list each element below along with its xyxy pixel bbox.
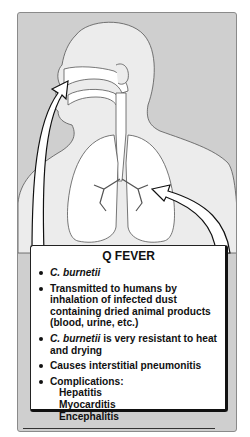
bullet-organism: C. burnetii — [36, 267, 221, 279]
bullet-transmission: Transmitted to humans by inhalation of i… — [36, 283, 221, 329]
q-fever-info-box: Q FEVER C. burnetii Transmitted to human… — [30, 245, 228, 412]
bullet-complications: Complications: Hepatitis Myocarditis Enc… — [36, 376, 221, 422]
complication-item: Myocarditis — [50, 399, 221, 411]
bullet-list: C. burnetii Transmitted to humans by inh… — [36, 267, 221, 422]
bullet-dot-icon — [39, 337, 43, 341]
complication-item: Encephalitis — [50, 411, 221, 423]
bullet-dot-icon — [39, 271, 43, 275]
bullet-resistance: C. burnetii is very resistant to heat an… — [36, 333, 221, 356]
bullet-dot-icon — [39, 364, 43, 368]
pneumonitis-text: Causes interstitial pneumonitis — [50, 360, 201, 371]
complications-label: Complications: — [50, 376, 124, 387]
bullet-dot-icon — [39, 287, 43, 291]
complication-item: Hepatitis — [50, 387, 221, 399]
footer-rule — [23, 428, 215, 429]
organism-name: C. burnetii — [50, 333, 100, 344]
bullet-pneumonitis: Causes interstitial pneumonitis — [36, 360, 221, 372]
organism-name: C. burnetii — [50, 267, 100, 278]
figure-title: Q FEVER — [36, 249, 221, 263]
transmission-text: Transmitted to humans by inhalation of i… — [50, 283, 211, 329]
bullet-dot-icon — [39, 380, 43, 384]
